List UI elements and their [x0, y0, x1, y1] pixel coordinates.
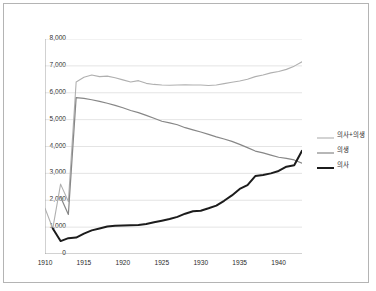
x-axis-tick-label: 1930	[183, 260, 219, 267]
series-line-1	[45, 62, 302, 229]
series-line-3	[53, 151, 302, 241]
x-axis-tick-label: 1910	[27, 260, 63, 267]
legend-item[interactable]: 의사+의생	[317, 130, 375, 145]
series-line-2	[61, 98, 302, 215]
legend-swatch	[317, 151, 334, 155]
chart-frame: 8,0007,0006,0005,0004,0003,0002,0001,000…	[3, 3, 369, 283]
x-axis-tick-label: 1925	[144, 260, 180, 267]
chart-screenshot: 8,0007,0006,0005,0004,0003,0002,0001,000…	[0, 0, 376, 291]
chart-svg	[45, 39, 302, 254]
legend-label: 의사+의생	[337, 131, 365, 138]
legend-label: 의생	[337, 146, 349, 153]
legend-swatch	[317, 166, 334, 170]
x-axis-tick-label: 1940	[261, 260, 297, 267]
legend-swatch	[317, 136, 334, 140]
chart-legend: 의사+의생의생의사	[317, 130, 375, 175]
x-axis-tick-label: 1935	[222, 260, 258, 267]
legend-item[interactable]: 의생	[317, 145, 375, 160]
legend-label: 의사	[337, 161, 349, 168]
x-axis-tick-label: 1920	[105, 260, 141, 267]
legend-item[interactable]: 의사	[317, 160, 375, 175]
x-axis-tick-label: 1915	[66, 260, 102, 267]
plot-area	[45, 39, 302, 254]
